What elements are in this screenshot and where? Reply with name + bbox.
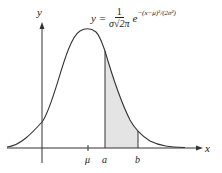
x-axis-label: x — [204, 142, 210, 154]
tick-label-b: b — [135, 154, 140, 165]
y-axis-label: y — [36, 6, 42, 18]
tick-label-a: a — [102, 154, 107, 165]
formula-numerator: 1 — [115, 6, 124, 18]
bell-curve — [7, 29, 185, 148]
formula-exponent: −(x−μ)²/(2σ²) — [137, 9, 176, 17]
formula-denominator: σ√2π — [109, 18, 129, 30]
density-formula: y = 1 σ√2π e −(x−μ)²/(2σ²) — [91, 6, 176, 30]
x-axis-arrow-icon — [196, 146, 203, 151]
y-axis-arrow-icon — [40, 22, 45, 29]
formula-lhs: y = — [91, 12, 106, 24]
formula-fraction: 1 σ√2π — [109, 6, 129, 30]
tick-label-mu: μ — [84, 154, 90, 165]
